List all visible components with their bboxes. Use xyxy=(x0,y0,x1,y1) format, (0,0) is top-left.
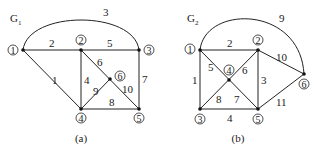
svg-text:6: 6 xyxy=(302,79,307,90)
node-label-g1-2: 2 xyxy=(76,35,86,46)
weight-g2-2-6: 10 xyxy=(276,51,288,63)
weight-g1-2-3: 5 xyxy=(107,37,113,49)
node-g2-4 xyxy=(227,78,231,82)
node-label-g1-1: 1 xyxy=(8,45,18,56)
node-label-g2-6: 6 xyxy=(299,79,309,90)
caption-b: (b) xyxy=(232,132,245,145)
svg-text:4: 4 xyxy=(79,113,84,124)
weight-g1-1-4: 1 xyxy=(52,74,58,86)
node-g2-6 xyxy=(302,72,306,76)
weight-g1-1-2: 2 xyxy=(49,37,55,49)
weight-g2-2-5: 3 xyxy=(261,74,267,86)
svg-text:4: 4 xyxy=(227,65,232,76)
weight-g1-4-5: 8 xyxy=(109,96,115,108)
svg-text:2: 2 xyxy=(256,35,261,46)
node-g1-1 xyxy=(21,48,25,52)
node-label-g1-6: 6 xyxy=(115,71,125,82)
node-label-g1-3: 3 xyxy=(144,45,154,56)
weight-g2-5-6: 11 xyxy=(276,96,287,108)
weight-g2-1-4: 5 xyxy=(208,61,214,73)
weight-g2-3-5: 4 xyxy=(227,112,233,124)
node-g2-3 xyxy=(198,107,202,111)
node-g2-5 xyxy=(256,107,260,111)
node-g2-1 xyxy=(198,48,202,52)
svg-text:3: 3 xyxy=(198,114,203,125)
node-g1-4 xyxy=(79,107,83,111)
weight-g1-3-5: 7 xyxy=(142,73,148,85)
weight-g1-6-5: 10 xyxy=(122,83,134,95)
node-g1-2 xyxy=(79,48,83,52)
graph-g1-title: G1 xyxy=(10,12,22,27)
node-g1-5 xyxy=(137,107,141,111)
node-label-g2-5: 5 xyxy=(253,114,263,125)
node-label-g2-4: 4 xyxy=(224,65,234,76)
node-label-g1-4: 4 xyxy=(76,113,86,124)
svg-text:2: 2 xyxy=(79,35,84,46)
svg-text:1: 1 xyxy=(188,44,193,55)
svg-text:3: 3 xyxy=(147,45,152,56)
graph-g2: G2 9 2 1 5 6 3 10 8 7 4 11 1 2 3 4 5 xyxy=(185,12,309,145)
node-g2-2 xyxy=(256,48,260,52)
weight-g2-2-4: 6 xyxy=(242,64,248,76)
weight-g1-2-4: 4 xyxy=(84,74,90,86)
svg-text:5: 5 xyxy=(256,114,261,125)
node-g1-3 xyxy=(137,48,141,52)
svg-text:1: 1 xyxy=(11,45,16,56)
weight-g1-2-6: 6 xyxy=(97,56,103,68)
weight-g1-6-4: 9 xyxy=(93,85,99,97)
graph-figure: G1 3 2 5 1 4 6 9 10 7 8 1 2 3 4 5 6 xyxy=(0,0,314,156)
node-label-g2-1: 1 xyxy=(185,44,195,55)
node-label-g1-5: 5 xyxy=(134,113,144,124)
svg-text:6: 6 xyxy=(118,71,123,82)
weight-g2-3-4: 8 xyxy=(216,93,222,105)
graph-g1: G1 3 2 5 1 4 6 9 10 7 8 1 2 3 4 5 6 xyxy=(8,6,154,145)
node-g1-6 xyxy=(108,77,112,81)
weight-g2-1-6: 9 xyxy=(279,12,285,24)
caption-a: (a) xyxy=(75,132,88,145)
weight-g2-1-2: 2 xyxy=(227,37,233,49)
node-label-g2-2: 2 xyxy=(253,35,263,46)
weight-g2-4-5: 7 xyxy=(234,93,240,105)
svg-text:5: 5 xyxy=(137,113,142,124)
graph-g2-title: G2 xyxy=(187,12,199,27)
node-label-g2-3: 3 xyxy=(195,114,205,125)
weight-g2-1-3: 1 xyxy=(192,74,198,86)
weight-g1-1-3: 3 xyxy=(103,6,109,18)
